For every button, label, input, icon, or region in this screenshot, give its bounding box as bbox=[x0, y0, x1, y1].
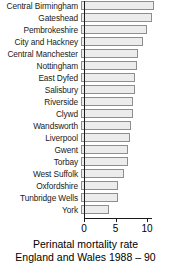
bar-row: West Suffolk bbox=[0, 168, 171, 180]
bar bbox=[81, 169, 124, 178]
bar-category-label: East Dyfed bbox=[0, 74, 81, 83]
bar-track bbox=[81, 168, 171, 180]
caption-line-1: Perinatal mortality rate bbox=[0, 238, 171, 251]
bar-category-label: Torbay bbox=[0, 158, 81, 167]
chart-plot-area: Central BirminghamGatesheadPembrokeshire… bbox=[0, 0, 171, 219]
bar-row: Riverside bbox=[0, 96, 171, 108]
bar-category-label: Salisbury bbox=[0, 86, 81, 95]
x-tick-label: 5 bbox=[105, 223, 127, 234]
x-tick-mark bbox=[147, 218, 148, 222]
bar-category-label: Wandsworth bbox=[0, 122, 81, 131]
bar-row: Gateshead bbox=[0, 12, 171, 24]
bar-track bbox=[81, 156, 171, 168]
bar-track bbox=[81, 24, 171, 36]
bar-row: Gwent bbox=[0, 144, 171, 156]
bar bbox=[81, 13, 152, 22]
x-tick-label: 10 bbox=[136, 223, 158, 234]
bar bbox=[81, 157, 128, 166]
bar-row: Salisbury bbox=[0, 84, 171, 96]
bar-category-label: Tunbridge Wells bbox=[0, 194, 81, 203]
bar bbox=[81, 133, 130, 142]
bar-category-label: Gwent bbox=[0, 146, 81, 155]
bar-row: Pembrokeshire bbox=[0, 24, 171, 36]
bar-track bbox=[81, 144, 171, 156]
bar-track bbox=[81, 36, 171, 48]
x-axis: 0510 bbox=[0, 218, 171, 240]
y-axis-line bbox=[84, 1, 85, 218]
bar-row: East Dyfed bbox=[0, 72, 171, 84]
bar bbox=[81, 37, 143, 46]
x-tick-mark bbox=[84, 218, 85, 222]
bar-row: Tunbridge Wells bbox=[0, 192, 171, 204]
bar-row: York bbox=[0, 204, 171, 216]
bar-track bbox=[81, 72, 171, 84]
bar-category-label: Oxfordshire bbox=[0, 182, 81, 191]
bar bbox=[81, 25, 147, 34]
bar-track bbox=[81, 48, 171, 60]
bar-category-label: Central Manchester bbox=[0, 50, 81, 59]
bar bbox=[81, 109, 133, 118]
bar-category-label: Clywd bbox=[0, 110, 81, 119]
caption-line-2: England and Wales 1988 – 90 bbox=[0, 251, 171, 263]
bar-row: Clywd bbox=[0, 108, 171, 120]
bar bbox=[81, 121, 131, 130]
bar-row: Nottingham bbox=[0, 60, 171, 72]
bar bbox=[81, 73, 135, 82]
bar-track bbox=[81, 204, 171, 216]
bar-track bbox=[81, 108, 171, 120]
bar-track bbox=[81, 192, 171, 204]
x-tick-mark bbox=[116, 218, 117, 222]
bar-category-label: Nottingham bbox=[0, 62, 81, 71]
bar-row: Central Manchester bbox=[0, 48, 171, 60]
bar-track bbox=[81, 96, 171, 108]
bar-category-label: Liverpool bbox=[0, 134, 81, 143]
bar-row: Oxfordshire bbox=[0, 180, 171, 192]
bar-category-label: Central Birmingham bbox=[0, 2, 81, 11]
bar-track bbox=[81, 120, 171, 132]
bar-track bbox=[81, 84, 171, 96]
bar-category-label: West Suffolk bbox=[0, 170, 81, 179]
bar-row: Central Birmingham bbox=[0, 0, 171, 12]
bar bbox=[81, 49, 138, 58]
bar-category-label: Riverside bbox=[0, 98, 81, 107]
bar-track bbox=[81, 180, 171, 192]
bar bbox=[81, 205, 109, 214]
bar-track bbox=[81, 12, 171, 24]
bar-row: Wandsworth bbox=[0, 120, 171, 132]
bar-row: Torbay bbox=[0, 156, 171, 168]
bar bbox=[81, 1, 154, 10]
bar bbox=[81, 85, 135, 94]
bar bbox=[81, 181, 118, 190]
x-axis-line bbox=[84, 218, 152, 219]
perinatal-mortality-bar-chart: Central BirminghamGatesheadPembrokeshire… bbox=[0, 0, 171, 263]
bar-category-label: Pembrokeshire bbox=[0, 26, 81, 35]
bar-category-label: Gateshead bbox=[0, 14, 81, 23]
bar-row: City and Hackney bbox=[0, 36, 171, 48]
bar-category-label: York bbox=[0, 206, 81, 215]
bar-row: Liverpool bbox=[0, 132, 171, 144]
bar bbox=[81, 193, 118, 202]
bar bbox=[81, 145, 128, 154]
x-tick-label: 0 bbox=[73, 223, 95, 234]
bar bbox=[81, 61, 137, 70]
bar-rows-container: Central BirminghamGatesheadPembrokeshire… bbox=[0, 0, 171, 216]
bar-track bbox=[81, 132, 171, 144]
bar-track bbox=[81, 60, 171, 72]
chart-caption: Perinatal mortality rate England and Wal… bbox=[0, 238, 171, 263]
bar-category-label: City and Hackney bbox=[0, 38, 81, 47]
bar-track bbox=[81, 0, 171, 12]
bar bbox=[81, 97, 133, 106]
